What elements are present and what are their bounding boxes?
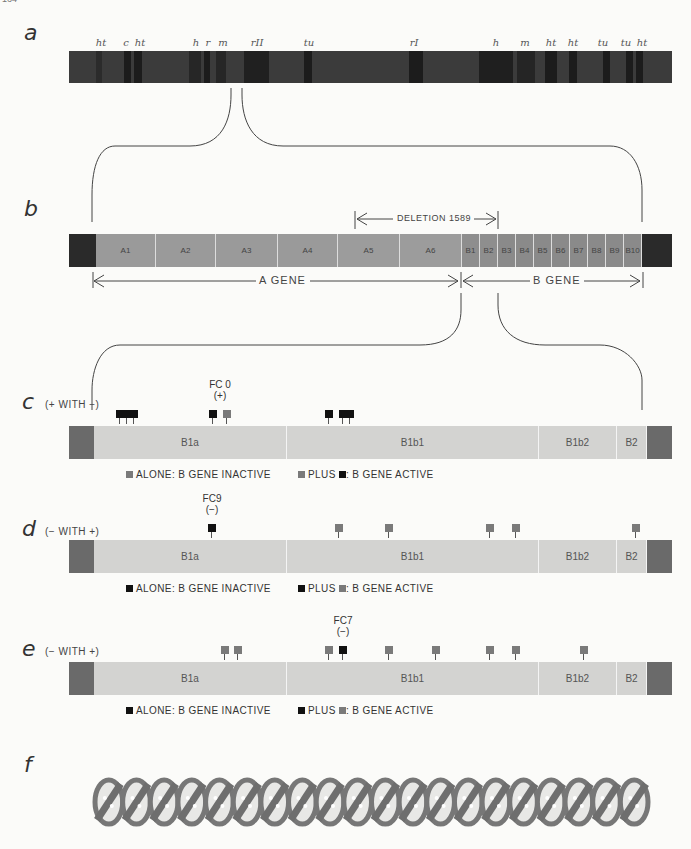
dna-double-helix <box>0 0 691 849</box>
